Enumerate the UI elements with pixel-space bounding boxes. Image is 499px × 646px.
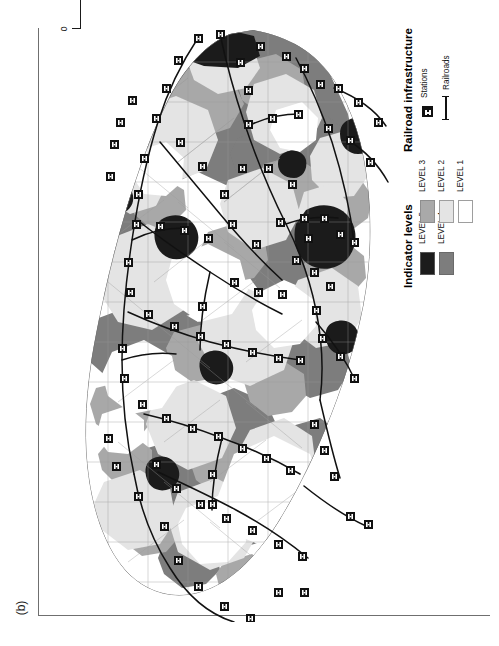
legend-swatch-level-2 xyxy=(439,200,454,223)
legend-swatch-level-5 xyxy=(420,252,435,275)
legend-swatch-level-4 xyxy=(439,252,454,275)
railroad-tick-bottom-icon xyxy=(442,119,449,120)
map-legend: Railroad infrastructure Stations Railroa… xyxy=(396,20,499,120)
figure-panel: (b) NORFOLK 1931 0 10 20 Kilometers Rail… xyxy=(0,0,499,646)
map-county-body xyxy=(48,22,393,622)
railroad-line-icon xyxy=(445,96,447,120)
map-stage: NORFOLK 1931 0 10 20 Kilometers Railroad… xyxy=(0,0,499,646)
legend-label-stations: Stations xyxy=(420,68,429,98)
railroad-tick-top-icon xyxy=(442,96,449,97)
station-icon-bar xyxy=(426,112,431,114)
station-square-icon xyxy=(422,106,433,117)
legend-label-level-1: LEVEL 1 xyxy=(456,160,465,192)
legend-label-railroads: Railroads xyxy=(442,55,451,90)
choropleth-map[interactable] xyxy=(48,22,393,622)
map-svg[interactable] xyxy=(48,22,393,622)
legend-heading-indicator: Indicator levels xyxy=(402,204,414,288)
legend-label-level-2: LEVEL 2 xyxy=(437,160,446,192)
legend-heading-railroad: Railroad infrastructure xyxy=(402,28,414,152)
legend-swatch-level-1 xyxy=(458,200,473,223)
legend-label-level-3: LEVEL 3 xyxy=(418,160,427,192)
legend-swatch-level-3 xyxy=(420,200,435,223)
